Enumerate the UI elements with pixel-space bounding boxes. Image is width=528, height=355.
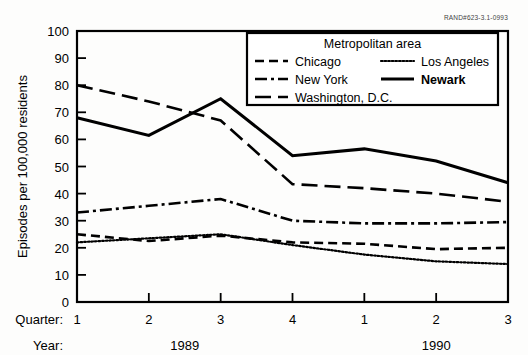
legend-label-chicago: Chicago [295,55,341,69]
x-tick-label-quarter: 2 [145,312,152,327]
line-chart-svg: 0102030405060708090100Episodes per 100,0… [0,0,528,355]
quarter-row-label: Quarter: [15,312,63,327]
x-tick-label-quarter: 1 [73,312,80,327]
y-axis-title: Episodes per 100,000 residents [15,75,30,258]
y-axis: 0102030405060708090100 [47,24,86,310]
y-tick-label: 90 [55,51,69,66]
year-row-label: Year: [33,338,63,353]
y-tick-label: 50 [55,160,69,175]
x-tick-label-quarter: 3 [504,312,511,327]
source-identifier: RAND#623-3.1-0993 [444,14,508,21]
legend-label-washington-d-c: Washington, D.C. [295,91,393,105]
legend-label-new-york: New York [295,73,349,87]
y-tick-label: 20 [55,241,69,256]
series-line-chicago [77,234,508,249]
y-tick-label: 10 [55,268,69,283]
series-group [77,85,508,264]
x-tick-label-quarter: 2 [433,312,440,327]
x-tick-label-year: 1989 [170,338,199,353]
y-tick-label: 100 [47,24,69,39]
x-tick-label-year: 1990 [422,338,451,353]
y-tick-label: 70 [55,105,69,120]
legend-title: Metropolitan area [324,37,421,51]
legend-label-los-angeles: Los Angeles [421,55,489,69]
y-tick-label: 30 [55,214,69,229]
series-line-newark [77,99,508,183]
x-tick-label-quarter: 3 [217,312,224,327]
y-tick-label: 60 [55,132,69,147]
y-tick-label: 0 [62,295,69,310]
y-tick-label: 40 [55,187,69,202]
legend: Metropolitan areaChicagoNew YorkWashingt… [247,33,498,105]
x-tick-label-quarter: 1 [361,312,368,327]
y-tick-label: 80 [55,78,69,93]
chart-figure: 0102030405060708090100Episodes per 100,0… [0,0,528,355]
x-axis: 1234123 [73,293,511,327]
series-line-new-york [77,199,508,223]
x-tick-label-quarter: 4 [289,312,296,327]
legend-label-newark: Newark [421,73,466,87]
